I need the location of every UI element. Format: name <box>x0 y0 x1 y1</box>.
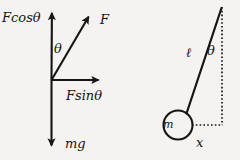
pendulum-string <box>187 8 222 114</box>
label-displacement-x: x <box>196 136 203 149</box>
label-length-ell: ℓ <box>186 46 191 59</box>
force-decomposition-diagram <box>51 13 99 146</box>
label-mg: mg <box>65 137 86 150</box>
label-mass-m: m <box>163 119 173 130</box>
label-f: F <box>100 13 109 26</box>
label-theta-pendulum: θ <box>207 44 215 57</box>
label-f-cos-theta: Fcosθ <box>2 11 41 24</box>
label-f-sin-theta: Fsinθ <box>66 89 102 102</box>
label-theta-force: θ <box>54 42 62 55</box>
physics-diagram-figure: Fcosθ F θ Fsinθ mg ℓ θ m x <box>0 0 240 160</box>
